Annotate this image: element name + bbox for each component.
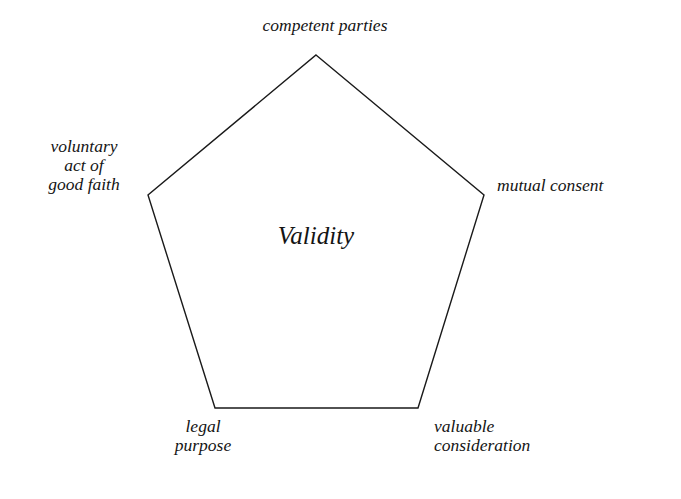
diagram-canvas: competent parties voluntary act of good … [0, 0, 681, 499]
vertex-label-valuable-consideration: valuable consideration [434, 417, 634, 455]
vertex-label-competent-parties: competent parties [232, 16, 418, 35]
vertex-label-voluntary-act-of-good-faith: voluntary act of good faith [22, 137, 146, 194]
center-label-validity: Validity [216, 222, 416, 250]
vertex-label-legal-purpose: legal purpose [141, 417, 265, 455]
vertex-label-mutual-consent: mutual consent [497, 176, 667, 195]
